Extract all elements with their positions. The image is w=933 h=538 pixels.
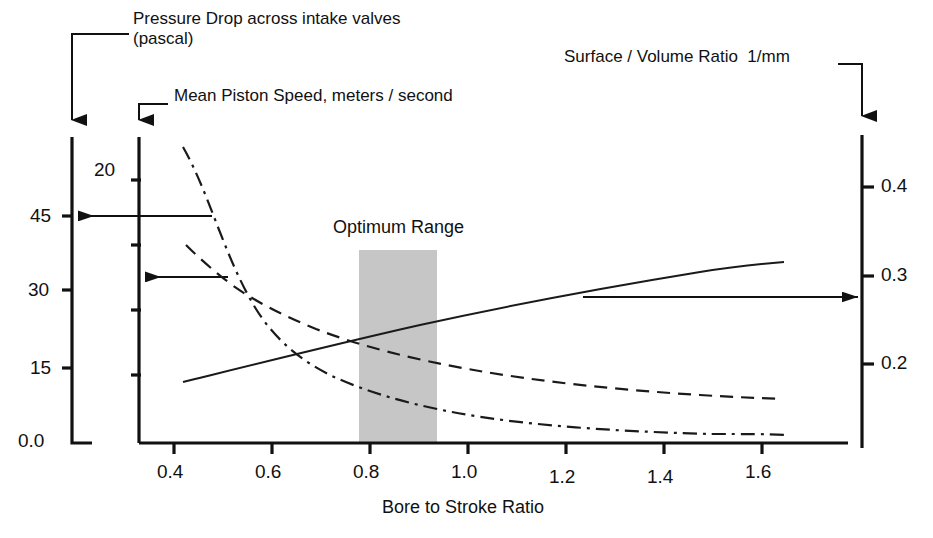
bore-to-stroke-axis [139,443,848,454]
pressure-drop-callout-label: Pressure Drop across intake valves (pasc… [133,9,400,49]
chart-canvas [0,0,933,538]
surface-volume-callout-leader [838,64,862,116]
tick-label-pressure-0: 0.0 [18,430,44,452]
chart-figure: Pressure Drop across intake valves (pasc… [0,0,933,538]
mean-piston-speed-callout-label: Mean Piston Speed, meters / second [174,86,453,106]
tick-label-pressure-30: 30 [28,279,49,301]
surface-volume-callout-label: Surface / Volume Ratio 1/mm [564,47,790,67]
series-mean-piston-speed [186,245,782,399]
tick-label-x-1-4: 1.4 [647,466,673,488]
tick-label-x-1-0: 1.0 [451,461,477,483]
tick-label-sv-0-4: 0.4 [881,175,907,197]
mean-piston-speed-callout-leader [139,104,168,120]
tick-label-x-1-6: 1.6 [745,461,771,483]
tick-label-sv-0-2: 0.2 [881,352,907,374]
surface-volume-ratio-axis [862,135,874,448]
pressure-drop-axis [62,137,92,443]
series-surface-volume-ratio [183,262,784,382]
tick-label-sv-0-3: 0.3 [881,264,907,286]
tick-label-x-0-4: 0.4 [157,461,183,483]
tick-label-x-0-6: 0.6 [255,461,281,483]
tick-label-x-0-8: 0.8 [353,461,379,483]
tick-label-pressure-45: 45 [30,205,51,227]
mean-piston-speed-axis [131,137,141,443]
series-pressure-drop [183,147,788,435]
tick-label-x-1-2: 1.2 [549,466,575,488]
tick-label-pressure-15: 15 [30,357,51,379]
optimum-range-label: Optimum Range [333,217,464,238]
x-axis-title: Bore to Stroke Ratio [382,497,544,518]
tick-label-piston-speed-20: 20 [94,159,115,181]
pressure-drop-callout-leader [72,34,129,120]
